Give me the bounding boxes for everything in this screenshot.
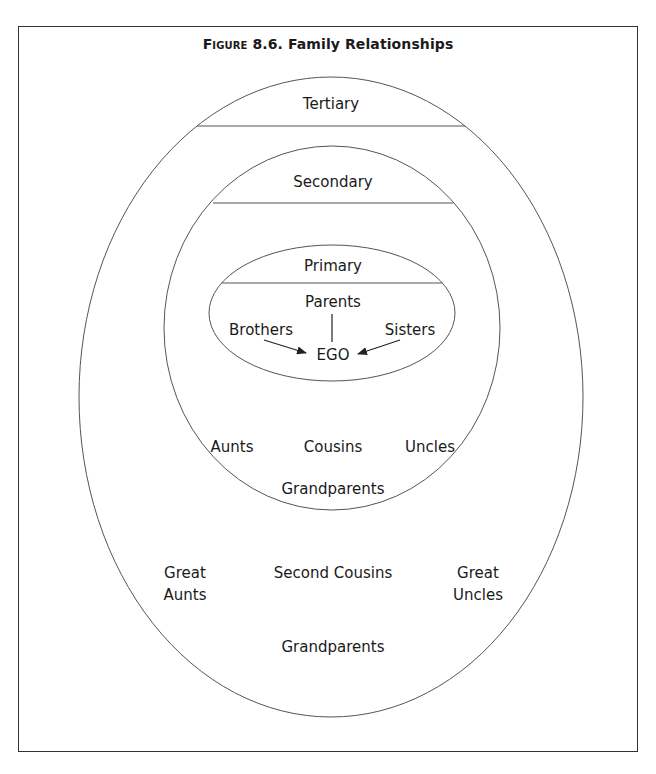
- secondary-grandparents-label: Grandparents: [282, 479, 385, 499]
- brothers-arrow: [264, 340, 306, 353]
- tertiary-grandparents-label: Grandparents: [282, 637, 385, 657]
- primary-label: Primary: [304, 256, 362, 276]
- uncles-label: Uncles: [405, 437, 455, 457]
- sisters-arrow: [358, 340, 400, 354]
- cousins-label: Cousins: [304, 437, 362, 457]
- brothers-label: Brothers: [229, 320, 293, 340]
- aunts-label: Aunts: [211, 437, 254, 457]
- great-uncles-label-line2: Uncles: [453, 585, 503, 605]
- second-cousins-label: Second Cousins: [274, 563, 392, 583]
- great-aunts-label-line1: Great: [164, 563, 206, 583]
- family-relationships-diagram: [0, 0, 656, 774]
- parents-label: Parents: [305, 292, 361, 312]
- great-uncles-label-line1: Great: [457, 563, 499, 583]
- secondary-label: Secondary: [293, 172, 372, 192]
- ego-label: EGO: [317, 345, 350, 365]
- great-aunts-label-line2: Aunts: [164, 585, 207, 605]
- tertiary-label: Tertiary: [303, 94, 359, 114]
- sisters-label: Sisters: [385, 320, 436, 340]
